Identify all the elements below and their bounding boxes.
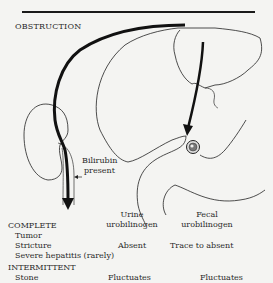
urine-column-header: Urine urobilinogen [102, 210, 162, 229]
fecal-column-header: Fecal urobilinogen [176, 210, 238, 229]
liver-outline [96, 28, 261, 130]
bile-duct-arrow [188, 42, 203, 128]
urine-header-line-2: urobilinogen [102, 220, 162, 230]
section-intermittent-heading: INTERMITTENT [8, 263, 76, 273]
cause-severe-hepatitis: Severe hepatitis (rarely) [15, 251, 114, 261]
complete-urine-value: Absent [118, 241, 146, 251]
bilirubin-label: Bilirubin present [82, 156, 117, 175]
cause-stone: Stone [15, 273, 38, 283]
complete-fecal-value: Trace to absent [170, 241, 233, 251]
intermittent-fecal-value: Fluctuates [200, 273, 243, 283]
annotation-line-1: Bilirubin [82, 156, 117, 166]
intermittent-urine-value: Fluctuates [108, 273, 151, 283]
fecal-header-line-2: urobilinogen [176, 220, 238, 230]
section-complete-heading: COMPLETE [8, 221, 57, 231]
fecal-header-line-1: Fecal [176, 210, 238, 220]
cause-stricture: Stricture [15, 241, 51, 251]
annotation-line-2: present [84, 166, 117, 176]
cause-tumor: Tumor [15, 231, 42, 241]
urine-header-line-1: Urine [102, 210, 162, 220]
